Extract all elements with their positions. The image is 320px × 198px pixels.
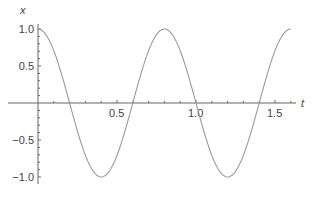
x-tick-label: 0.5	[109, 107, 124, 119]
y-tick-label: −1.0	[12, 171, 34, 183]
y-tick-label: 0.5	[19, 60, 34, 72]
y-axis: 1.00.5−0.5−1.0 x	[12, 4, 41, 184]
y-axis-label: x	[19, 4, 26, 16]
x-tick-label: 1.0	[188, 107, 203, 119]
y-tick-label: 1.0	[19, 23, 34, 35]
y-tick-label: −0.5	[12, 134, 34, 146]
x-tick-label: 1.5	[267, 107, 282, 119]
x-axis-label: t	[301, 97, 305, 109]
line-chart: 0.51.01.5 t 1.00.5−0.5−1.0 x	[0, 0, 320, 198]
